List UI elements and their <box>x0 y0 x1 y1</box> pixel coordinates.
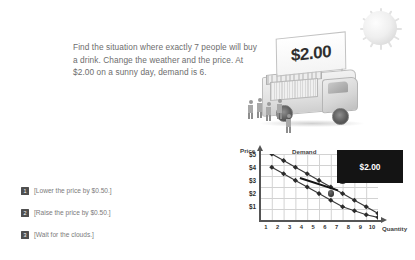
slide-canvas: Find the situation where exactly 7 peopl… <box>0 0 415 260</box>
chart-xtick: 5 <box>307 224 319 230</box>
chart-x-axis <box>259 220 383 222</box>
choice-badge: 3 <box>21 231 29 239</box>
chart-y-axis <box>259 150 261 222</box>
chart-x-axis-arrow <box>381 217 387 223</box>
customer-figure <box>277 99 282 119</box>
demand-chart: Price Demand Quantity $5 $4 $3 $2 $1 1 2… <box>236 146 411 238</box>
chart-xtick: 1 <box>260 224 272 230</box>
chart-ytick: $3 <box>238 177 256 184</box>
chart-xlabel: Quantity <box>382 225 407 232</box>
chart-xtick: 9 <box>354 224 366 230</box>
choice-label: [Lower the price by $0.50.] <box>34 187 112 194</box>
chart-ytick: $1 <box>238 203 256 210</box>
chart-ytick: $5 <box>238 151 256 158</box>
price-callout-value: $2.00 <box>360 162 381 172</box>
chart-xtick: 2 <box>272 224 284 230</box>
choice-option-1[interactable]: 1 [Lower the price by $0.50.] <box>21 183 161 198</box>
chart-ytick: $4 <box>238 164 256 171</box>
price-callout: $2.00 <box>337 150 403 183</box>
choice-badge: 2 <box>21 209 29 217</box>
choice-label: [Wait for the clouds.] <box>34 231 94 238</box>
choice-badge: 1 <box>21 187 29 195</box>
food-truck-illustration: $2.00 <box>246 28 376 148</box>
chart-highlight-target <box>328 190 335 197</box>
customer-figure <box>248 100 253 119</box>
chart-xtick-row: 1 2 3 4 5 6 7 8 9 10 <box>260 224 378 230</box>
chart-y-axis-arrow <box>257 145 263 151</box>
truck-shadow <box>260 120 364 127</box>
chart-xtick: 10 <box>366 224 378 230</box>
chart-xtick: 3 <box>284 224 296 230</box>
chart-xtick: 6 <box>319 224 331 230</box>
chart-xtick: 8 <box>343 224 355 230</box>
choice-label: [Raise the price by $0.50.] <box>34 209 111 216</box>
choice-option-2[interactable]: 2 [Raise the price by $0.50.] <box>21 205 161 220</box>
customer-figure <box>266 102 271 121</box>
truck-price-sign-value: $2.00 <box>291 42 331 66</box>
truck-cab-window <box>328 81 348 94</box>
prompt-text: Find the situation where exactly 7 peopl… <box>73 41 263 79</box>
choice-option-3[interactable]: 3 [Wait for the clouds.] <box>21 227 161 242</box>
chart-xtick: 4 <box>295 224 307 230</box>
chart-ytick: $2 <box>238 190 256 197</box>
customer-figure <box>257 98 262 118</box>
truck-wheel-front <box>332 108 349 125</box>
chart-xtick: 7 <box>331 224 343 230</box>
truck-price-sign: $2.00 <box>276 31 347 76</box>
choice-list: 1 [Lower the price by $0.50.] 2 [Raise t… <box>21 183 161 249</box>
customer-figure <box>286 114 291 133</box>
